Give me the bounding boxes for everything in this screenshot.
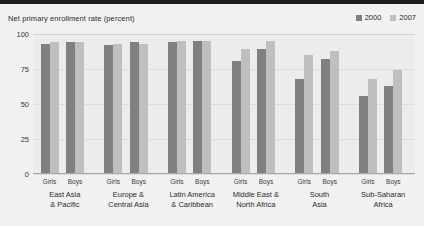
- subcategory-label-boys: Boys: [386, 178, 400, 185]
- legend-item-2007[interactable]: 2007: [390, 13, 416, 22]
- bar[interactable]: [304, 55, 313, 174]
- region-label-block: GirlsBoysSub-SaharanAfrica: [351, 176, 415, 188]
- chart-card: Net primary enrollment rate (percent) 20…: [0, 4, 424, 226]
- region-name-label: East Asia& Pacific: [49, 190, 80, 209]
- bar[interactable]: [330, 51, 339, 174]
- plot-area: [33, 34, 415, 174]
- region-name-label: Sub-SaharanAfrica: [361, 190, 405, 209]
- subcategory-label-girls: Girls: [361, 178, 374, 185]
- bar[interactable]: [177, 41, 186, 174]
- chart-title: Net primary enrollment rate (percent): [8, 14, 135, 23]
- bar[interactable]: [359, 96, 368, 174]
- bar[interactable]: [75, 42, 84, 174]
- bar-group-region: [351, 34, 415, 174]
- subcategory-label-girls: Girls: [298, 178, 311, 185]
- bar-group-region: [224, 34, 288, 174]
- bar[interactable]: [384, 86, 393, 174]
- bar[interactable]: [368, 79, 377, 174]
- y-tick-label-25: 25: [3, 135, 29, 144]
- bar[interactable]: [113, 44, 122, 174]
- bar[interactable]: [266, 41, 275, 174]
- bar[interactable]: [193, 41, 202, 174]
- subcategory-label-boys: Boys: [68, 178, 82, 185]
- y-tick-label-100: 100: [3, 30, 29, 39]
- x-axis-labels: GirlsBoysEast Asia& PacificGirlsBoysEuro…: [33, 176, 415, 226]
- legend-item-2000[interactable]: 2000: [356, 13, 382, 22]
- legend-label-2007: 2007: [399, 13, 416, 22]
- bar-group-region: [288, 34, 352, 174]
- bar[interactable]: [168, 42, 177, 174]
- bar[interactable]: [393, 70, 402, 174]
- bar[interactable]: [139, 44, 148, 174]
- legend-label-2000: 2000: [365, 13, 382, 22]
- bar[interactable]: [232, 61, 241, 174]
- subcategory-labels: GirlsBoys: [351, 176, 415, 188]
- legend-swatch-2007: [390, 15, 396, 21]
- legend-swatch-2000: [356, 15, 362, 21]
- bar[interactable]: [321, 59, 330, 174]
- bar-group-region: [33, 34, 97, 174]
- subcategory-labels: GirlsBoys: [224, 176, 288, 188]
- subcategory-label-girls: Girls: [107, 178, 120, 185]
- region-name-label: Middle East &North Africa: [233, 190, 279, 209]
- subcategory-label-boys: Boys: [322, 178, 336, 185]
- bar[interactable]: [41, 44, 50, 174]
- region-label-block: GirlsBoysLatin America& Caribbean: [160, 176, 224, 188]
- bar[interactable]: [241, 49, 250, 174]
- subcategory-labels: GirlsBoys: [160, 176, 224, 188]
- bar-group-region: [97, 34, 161, 174]
- y-tick-label-75: 75: [3, 65, 29, 74]
- bar[interactable]: [257, 49, 266, 174]
- chart-figure: Net primary enrollment rate (percent) 20…: [0, 0, 424, 226]
- region-name-label: Europe &Central Asia: [108, 190, 148, 209]
- y-tick-label-0: 0: [3, 170, 29, 179]
- bar[interactable]: [66, 42, 75, 174]
- y-axis: 0255075100: [0, 34, 29, 174]
- region-label-block: GirlsBoysEast Asia& Pacific: [33, 176, 97, 188]
- region-label-block: GirlsBoysMiddle East &North Africa: [224, 176, 288, 188]
- bar-group-region: [160, 34, 224, 174]
- subcategory-label-girls: Girls: [170, 178, 183, 185]
- subcategory-label-boys: Boys: [131, 178, 145, 185]
- region-label-block: GirlsBoysEurope &Central Asia: [97, 176, 161, 188]
- region-label-block: GirlsBoysSouthAsia: [288, 176, 352, 188]
- region-name-label: Latin America& Caribbean: [169, 190, 214, 209]
- bar[interactable]: [130, 42, 139, 174]
- subcategory-label-boys: Boys: [195, 178, 209, 185]
- bar[interactable]: [50, 42, 59, 174]
- chart-legend: 2000 2007: [356, 13, 416, 22]
- subcategory-label-girls: Girls: [234, 178, 247, 185]
- axis-baseline: [33, 173, 415, 174]
- subcategory-labels: GirlsBoys: [288, 176, 352, 188]
- y-tick-label-50: 50: [3, 100, 29, 109]
- subcategory-labels: GirlsBoys: [33, 176, 97, 188]
- region-name-label: SouthAsia: [310, 190, 330, 209]
- gridline-0: [33, 174, 415, 175]
- bar[interactable]: [202, 41, 211, 174]
- subcategory-label-boys: Boys: [259, 178, 273, 185]
- bar[interactable]: [295, 79, 304, 174]
- bar[interactable]: [104, 45, 113, 174]
- subcategory-label-girls: Girls: [43, 178, 56, 185]
- subcategory-labels: GirlsBoys: [97, 176, 161, 188]
